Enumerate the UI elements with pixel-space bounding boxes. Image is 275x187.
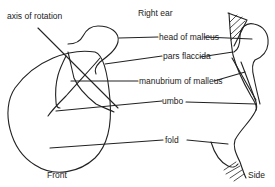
eardrum-diagram: Right ear axis of rotation head of malle… (0, 0, 275, 187)
axis-of-rotation-line (38, 28, 118, 108)
label-umbo: umbo (162, 97, 183, 106)
label-pars-flaccida: pars flaccida (163, 52, 211, 61)
leader-fold-right (187, 140, 228, 144)
manubrium-front (68, 52, 114, 112)
label-side-view: Side (248, 171, 265, 180)
leader-umbo-right (186, 102, 256, 104)
malleus-head-front (68, 26, 118, 74)
label-front-view: Front (47, 171, 67, 180)
manubrium-front-inner (56, 56, 66, 108)
leader-fold (50, 140, 163, 148)
label-head-of-malleus: head of malleus (159, 33, 219, 42)
leader-head (119, 37, 158, 38)
label-fold: fold (165, 136, 179, 145)
label-axis-of-rotation: axis of rotation (7, 12, 62, 21)
label-manubrium-of-malleus: manubrium of malleus (139, 77, 223, 86)
diagram-drawing (0, 0, 275, 187)
leader-pars (105, 56, 162, 64)
title-right-ear: Right ear (138, 9, 173, 18)
